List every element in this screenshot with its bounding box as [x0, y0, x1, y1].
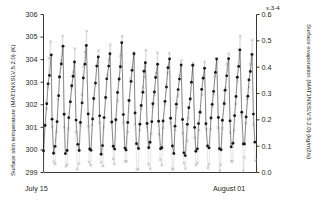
axis-tick-marks [41, 15, 260, 173]
plot-area [0, 0, 316, 200]
chart-figure: Surface skin temperature (MAT1NXSLV.5.2.… [0, 0, 316, 200]
